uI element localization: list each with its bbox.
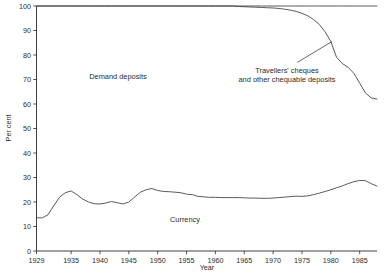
travellers-cheques-label-line2: and other chequable deposits — [239, 75, 336, 84]
y-tick-label: 30 — [23, 173, 31, 182]
x-tick-label: 1940 — [92, 256, 108, 265]
x-tick-label: 1935 — [63, 256, 79, 265]
y-tick-label: 90 — [23, 26, 31, 35]
x-tick-label: 1929 — [29, 256, 45, 265]
x-tick-label: 1985 — [352, 256, 368, 265]
series-line — [37, 180, 378, 217]
y-tick-label: 20 — [23, 198, 31, 207]
x-axis-title: Year — [200, 263, 215, 272]
x-tick-label: 1980 — [323, 256, 339, 265]
y-tick-label: 40 — [23, 149, 31, 158]
chart-figure: 0102030405060708090100 19291935194019451… — [0, 0, 387, 273]
demand-deposits-label: Demand deposits — [89, 72, 147, 81]
y-tick-label: 70 — [23, 75, 31, 84]
x-tick-label: 1965 — [236, 256, 252, 265]
line-chart: 0102030405060708090100 19291935194019451… — [0, 0, 387, 273]
y-axis-ticks: 0102030405060708090100 — [19, 2, 37, 256]
x-tick-label: 1975 — [294, 256, 310, 265]
x-axis-ticks: 1929193519401945195019551960196519701975… — [29, 251, 368, 265]
currency-label: Currency — [170, 215, 200, 224]
x-tick-label: 1970 — [265, 256, 281, 265]
y-tick-label: 50 — [23, 124, 31, 133]
travellers-cheques-leader-icon — [297, 42, 332, 63]
y-tick-label: 100 — [19, 2, 31, 11]
series-line — [37, 6, 378, 99]
x-tick-label: 1950 — [150, 256, 166, 265]
x-tick-label: 1945 — [121, 256, 137, 265]
y-tick-label: 80 — [23, 51, 31, 60]
x-tick-label: 1955 — [179, 256, 195, 265]
y-tick-label: 10 — [23, 222, 31, 231]
travellers-cheques-label-line1: Travellers' cheques — [255, 66, 319, 75]
y-tick-label: 60 — [23, 100, 31, 109]
y-axis-title: Per cent — [4, 115, 13, 142]
data-series-group — [37, 6, 378, 218]
y-tick-label: 0 — [27, 247, 31, 256]
